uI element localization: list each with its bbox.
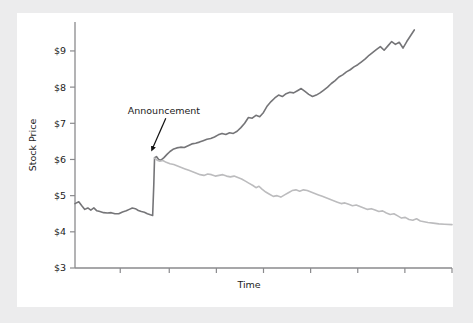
series-line-post-announcement-decline <box>155 158 452 225</box>
annotation-label: Announcement <box>128 105 201 116</box>
annotation-arrow <box>152 118 165 149</box>
y-tick-label: $3 <box>54 262 66 273</box>
y-tick-label: $9 <box>54 45 66 56</box>
y-tick-label: $7 <box>54 118 66 129</box>
y-tick-label: $8 <box>54 82 66 93</box>
y-tick-group: $3$4$5$6$7$8$9 <box>54 45 75 273</box>
chart-screenshot: $3$4$5$6$7$8$9 Announcement Stock Price … <box>0 0 473 323</box>
x-axis-label: Time <box>236 279 260 290</box>
annotation-group: Announcement <box>128 105 201 149</box>
series-line-post-announcement-rise <box>75 30 414 216</box>
x-tick-group <box>120 268 452 273</box>
y-tick-label: $6 <box>54 154 66 165</box>
y-tick-label: $5 <box>54 190 66 201</box>
stock-price-line-chart: $3$4$5$6$7$8$9 Announcement Stock Price … <box>0 0 473 323</box>
series-group <box>75 30 452 225</box>
y-axis-group: $3$4$5$6$7$8$9 <box>54 22 75 273</box>
y-axis-label: Stock Price <box>27 119 38 172</box>
y-tick-label: $4 <box>54 226 66 237</box>
x-axis-group <box>75 268 452 273</box>
